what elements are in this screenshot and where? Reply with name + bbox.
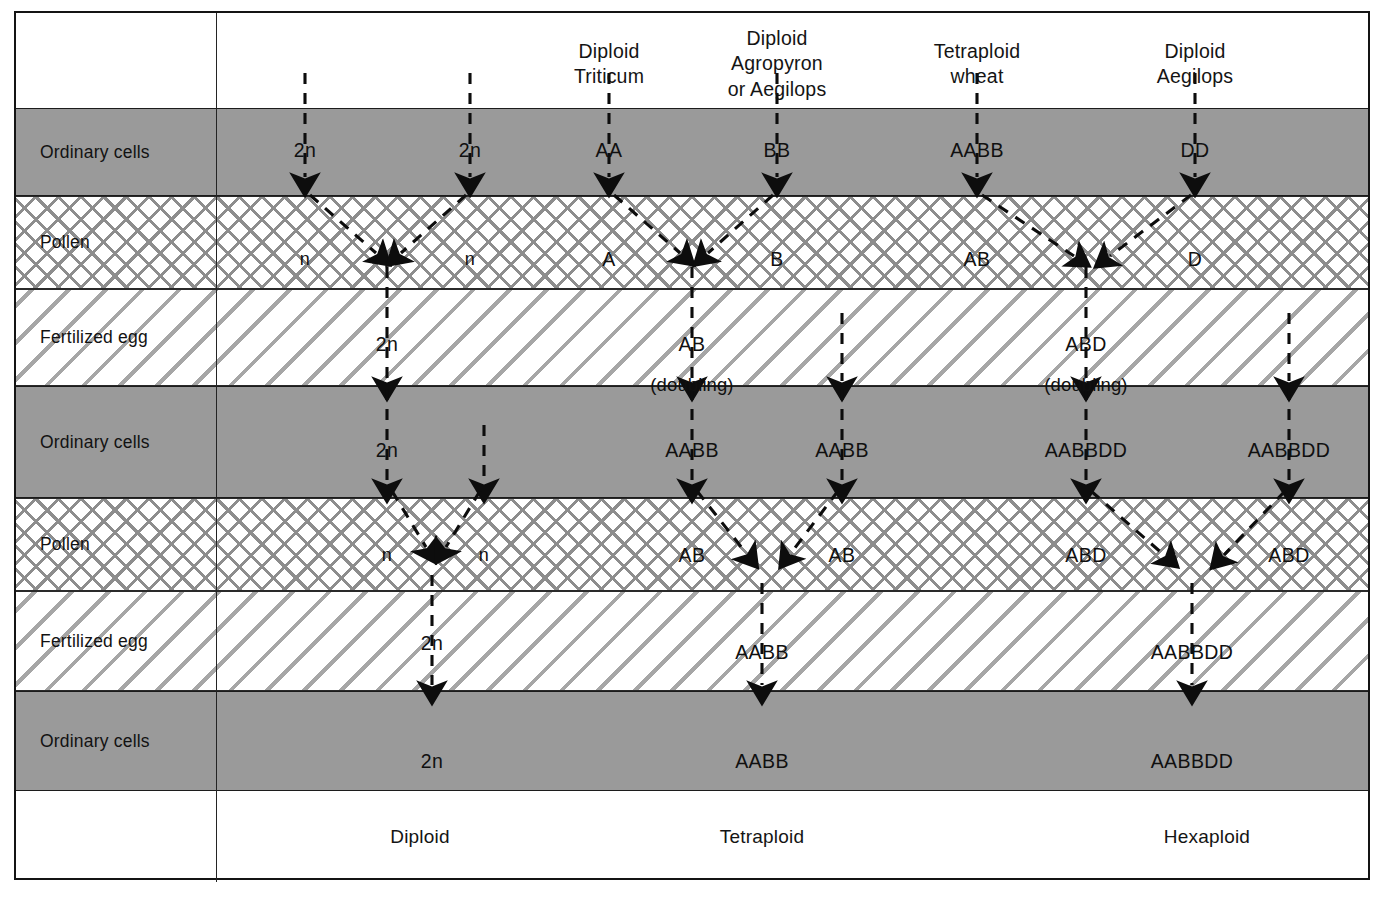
column-header-line: Diploid [574,39,644,64]
band-pollen-1 [16,196,1368,289]
column-header-line: or Aegilops [728,77,827,102]
node-AB-fertilized-1: AB [679,333,706,356]
node-2n-ordinary-2: 2n [376,439,399,462]
column-header-tetraploid-wheat: Tetraploid wheat [934,39,1021,90]
column-header-line: Tetraploid [934,39,1021,64]
column-header-line: Triticum [574,64,644,89]
row-label-pollen-2: Pollen [40,534,90,555]
ploidy-label-diploid: Diploid [390,826,450,848]
row-label-pollen-1: Pollen [40,232,90,253]
node-2n-b: 2n [459,139,482,162]
row-label-ordinary-cells-1: Ordinary cells [40,142,150,163]
column-header-diploid-agropyron: Diploid Agropyron or Aegilops [728,26,827,102]
node-AA: AA [596,139,623,162]
node-AB-pollen-2b: AB [829,544,856,567]
row-label-fertilized-egg-1: Fertilized egg [40,327,148,348]
ploidy-label-hexaploid: Hexaploid [1164,826,1250,848]
node-A: A [602,248,615,271]
column-header-line: wheat [934,64,1021,89]
row-label-ordinary-cells-3: Ordinary cells [40,731,150,752]
node-AABB-ordinary-2a: AABB [665,439,719,462]
node-AABBDD-fertilized-2: AABBDD [1151,641,1234,664]
node-AABBDD-ordinary-2a: AABBDD [1045,439,1128,462]
node-2n-fertilized-1: 2n [376,333,399,356]
column-header-diploid-triticum: Diploid Triticum [574,39,644,90]
node-DD: DD [1181,139,1210,162]
node-D: D [1188,248,1202,271]
node-AABBDD-ordinary-2b: AABBDD [1248,439,1331,462]
column-header-line: Aegilops [1157,64,1233,89]
band-ordinary-cells-3 [16,691,1368,791]
column-header-diploid-aegilops: Diploid Aegilops [1157,39,1233,90]
column-header-line: Diploid [1157,39,1233,64]
node-2n-a: 2n [294,139,317,162]
note-doubling-2: (doubling) [1044,374,1127,396]
node-BB: BB [764,139,791,162]
note-doubling-1: (doubling) [650,374,733,396]
node-n-a: n [300,249,310,270]
node-n-c: n [382,545,392,566]
node-AABB-fertilized-2: AABB [735,641,789,664]
diagram-frame: Ordinary cells Pollen Fertilized egg Ord… [14,11,1370,880]
node-AABB-ordinary-3: AABB [735,750,789,773]
node-ABD-pollen-2b: ABD [1268,544,1309,567]
node-n-d: n [479,545,489,566]
row-label-ordinary-cells-2: Ordinary cells [40,432,150,453]
row-label-fertilized-egg-2: Fertilized egg [40,631,148,652]
node-AB-pollen-2a: AB [679,544,706,567]
column-header-line: Agropyron [728,51,827,76]
node-ABD-pollen-2a: ABD [1065,544,1106,567]
band-ordinary-cells-1 [16,108,1368,196]
node-ABD-fertilized-1: ABD [1065,333,1106,356]
node-AABB-top: AABB [950,139,1004,162]
node-2n-ordinary-3: 2n [421,750,444,773]
node-AABBDD-ordinary-3: AABBDD [1151,750,1234,773]
column-header-line: Diploid [728,26,827,51]
label-column-divider [216,13,217,882]
node-B: B [770,248,783,271]
node-AB-p1: AB [964,248,991,271]
node-AABB-ordinary-2b: AABB [815,439,869,462]
diagram-canvas: Ordinary cells Pollen Fertilized egg Ord… [0,0,1382,900]
ploidy-label-tetraploid: Tetraploid [720,826,804,848]
node-2n-fertilized-2: 2n [421,632,444,655]
node-n-b: n [465,249,475,270]
